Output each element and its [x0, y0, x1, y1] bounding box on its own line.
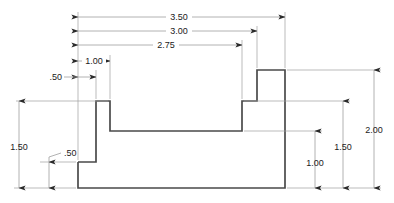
- label-1-50-right: 1.50: [334, 142, 352, 152]
- part-outline: [78, 70, 285, 188]
- technical-drawing-canvas: 3.50 3.00 2.75 1.00 .50 1.50 .50 1.00 1.…: [0, 0, 394, 203]
- label-1-00-top: 1.00: [85, 56, 103, 66]
- vertical-dimensions: [19, 70, 374, 188]
- drawing-svg: 3.50 3.00 2.75 1.00 .50 1.50 .50 1.00 1.…: [0, 0, 394, 203]
- label-3-00: 3.00: [170, 26, 188, 36]
- label-1-00-right: 1.00: [306, 158, 324, 168]
- label-0-50-left: .50: [64, 148, 77, 158]
- label-2-00-right: 2.00: [365, 125, 383, 135]
- label-2-75: 2.75: [157, 40, 175, 50]
- extension-lines: [14, 12, 381, 188]
- leader-0-50-left-jog: [49, 153, 61, 157]
- label-1-50-left: 1.50: [10, 142, 28, 152]
- dimension-labels: 3.50 3.00 2.75 1.00 .50 1.50 .50 1.00 1.…: [10, 10, 383, 168]
- label-0-50-top: .50: [49, 72, 62, 82]
- label-3-50: 3.50: [170, 12, 188, 22]
